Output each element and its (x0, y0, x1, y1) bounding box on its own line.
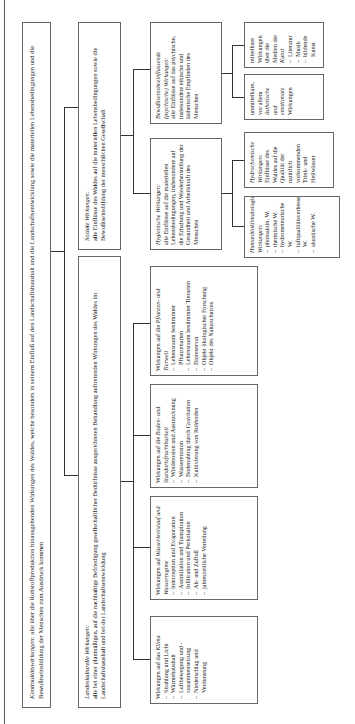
humanbio-list: photoaktin. W. thermische W. hydrometeor… (263, 201, 316, 253)
connector (232, 226, 244, 227)
list-item: Wärmehaushalt (169, 621, 177, 699)
bewusstsein-title: Bewußtseinsbeeinflussende (psychische) W… (154, 27, 169, 119)
connector (121, 135, 133, 136)
list-item: Ab- und Zufluß (192, 501, 200, 595)
list-item: Infiltration und Perkolation (184, 501, 192, 595)
soziale-title: Soziale Wirkungen: (83, 31, 91, 241)
mittelbar-title: Kunst (278, 49, 285, 63)
list-item: Kultivierung von Rohboden (192, 389, 200, 483)
connector (232, 45, 244, 46)
klima-list: Strahlung und Licht Wärmehaushalt Luftbe… (162, 621, 208, 699)
list-item: Winderosion und Austrocknung (169, 389, 177, 483)
list-item: bildende Kunst (301, 27, 316, 63)
list-item: akustische W. (309, 201, 317, 253)
soziale-text: alle Einflüsse des Waldes auf die materi… (91, 31, 107, 241)
boden-intro: Wirkungen auf die (154, 437, 161, 483)
list-item: jahreszeitliche Verteilung (200, 501, 208, 595)
list-item: Bodenabtrag durch Gravitation (184, 389, 192, 483)
list-item: Objekt ökologischer Forschung (200, 271, 208, 371)
root-box-kontinuitaetswirkungen: Kontinuitätswirkungen: alle über die Roh… (22, 22, 51, 708)
mittelbar-pre: mittelbare Wirkungen über die Medien der (248, 35, 278, 63)
list-item: thermische W. (271, 201, 279, 253)
hydrochemische-title: Hydrochemische Wirkungen: (248, 137, 263, 183)
list-item: Niederschlag und Verdunstung (192, 621, 207, 699)
box-wirkungen-klima: Wirkungen auf das Klima Strahlung und Li… (150, 616, 258, 704)
connector (232, 160, 244, 161)
boden-list: Winderosion und Austrocknung Wassererosi… (169, 389, 199, 483)
connector (64, 108, 65, 476)
connector (222, 73, 232, 74)
box-hygienische-wirkungen: Hygienische Wirkungen: alle Einflüsse au… (150, 138, 222, 250)
bewusstsein-text: alle Einflüsse auf das psychische, insbe… (169, 27, 199, 119)
list-item: Assimilation und Transpiration (177, 501, 185, 595)
wasser-intro: Wirkungen auf (154, 558, 161, 595)
connector (133, 70, 134, 194)
box-bewusstseinsbeeinflussende-wirkungen: Bewußtseinsbeeinflussende (psychische) W… (150, 22, 222, 124)
box-hydrochemische-wirkungen: Hydrochemische Wirkungen: Einflüsse des … (244, 132, 334, 188)
landeskulturelle-title: Landeskulturelle Wirkungen: (83, 265, 91, 699)
list-item: luftqualitätsverbessernde W. (294, 201, 309, 253)
connector (133, 547, 150, 548)
connector (133, 324, 134, 660)
connector (64, 107, 78, 108)
box-landeskulturelle-wirkungen: Landeskulturelle Wirkungen: alle bei ein… (78, 256, 121, 708)
list-item: Literatur (286, 27, 294, 63)
klima-intro: Wirkungen auf das (154, 652, 161, 699)
connector (51, 251, 64, 252)
connector (232, 46, 233, 98)
root-title: Kontinuitätswirkungen: (28, 636, 35, 699)
hygienische-text: alle Einflüsse auf die materiellen Leben… (162, 143, 200, 245)
list-item: Strahlung und Licht (162, 621, 170, 699)
list-item: Wassererosion (177, 389, 185, 483)
hydrochemische-text: Einflüsse des Waldes auf die Qualität de… (263, 137, 316, 183)
connector (133, 435, 150, 436)
connector (121, 481, 133, 482)
unmittelbar-title: ästhetische und emotionale (263, 88, 285, 116)
connector (64, 475, 78, 476)
box-wirkungen-boden: Wirkungen auf die Boden- und Standortsfr… (150, 384, 258, 488)
box-humanbioklimatologische-wirkungen: Humanbioklimatologische Wirkungen: photo… (244, 196, 340, 258)
hierarchy-diagram: Kontinuitätswirkungen: alle über die Roh… (0, 0, 355, 724)
list-item: Interzeption und Evaporation (169, 501, 177, 595)
wasser-list: Interzeption und Evaporation Assimilatio… (169, 501, 207, 595)
pflanzen-intro: Wirkungen auf die (154, 325, 161, 371)
unmittelbar-post: Wirkungen (286, 87, 293, 115)
box-mittelbare-wirkungen-kunst: mittelbare Wirkungen über die Medien der… (244, 22, 324, 68)
connector (133, 659, 150, 660)
list-item: Musik (294, 27, 302, 63)
root-text: alle über die Rohstoffproduktion hinausg… (28, 46, 44, 699)
connector (133, 323, 150, 324)
list-item: Lebensraum bestimmter Pflanzenarten (169, 271, 184, 371)
list-item: photoaktin. W. (263, 201, 271, 253)
connector (222, 193, 232, 194)
unmittelbar-pre: unmittelbare, vor allem (248, 82, 263, 115)
list-item: hydrometeorische W. (278, 201, 293, 253)
connector (232, 97, 244, 98)
list-item: Luftbewegung und -zusammensetzung (177, 621, 192, 699)
list-item: Objekt des Naturschutzes (207, 271, 215, 371)
kunst-list: Literatur Musik bildende Kunst (286, 27, 316, 63)
box-wirkungen-pflanzen-tierwelt: Wirkungen auf die Pflanzen- und Tierwelt… (150, 266, 258, 376)
landeskulturelle-text: alle bei einer planmäßigen, auf die nach… (91, 265, 107, 699)
list-item: Bioreservat (192, 271, 200, 371)
pflanzen-list: Lebensraum bestimmter Pflanzenarten Lebe… (169, 271, 215, 371)
connector (232, 161, 233, 227)
hygienische-title: Hygienische Wirkungen: (154, 143, 162, 245)
humanbio-title: Humanbioklimatologische Wirkungen: (248, 201, 263, 253)
box-wirkungen-wasserkreislauf: Wirkungen auf Wasserkreislauf und Wasser… (150, 496, 258, 600)
klima-title: Klima (154, 635, 161, 650)
connector (133, 193, 150, 194)
list-item: Lebensraum bestimmter Tierarten (184, 271, 192, 371)
box-soziale-wirkungen: Soziale Wirkungen: alle Einflüsse des Wa… (78, 22, 121, 250)
box-unmittelbare-wirkungen: unmittelbare, vor allem ästhetische und … (244, 74, 324, 120)
connector (133, 69, 150, 70)
